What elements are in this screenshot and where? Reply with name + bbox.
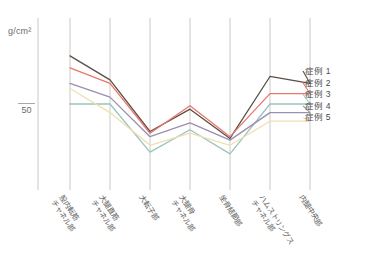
legend-item-case-2[interactable]: 症例 2: [305, 78, 331, 90]
plot-area: [0, 0, 381, 265]
line-chart: g/cm² 50 症例 1 症例 2 症例 3 症例 4 症例 5 股内転筋チャ…: [0, 0, 381, 265]
legend: 症例 1 症例 2 症例 3 症例 4 症例 5: [305, 66, 331, 124]
legend-item-case-5[interactable]: 症例 5: [305, 112, 331, 124]
legend-item-case-3[interactable]: 症例 3: [305, 89, 331, 101]
legend-item-case-4[interactable]: 症例 4: [305, 101, 331, 113]
legend-item-case-1[interactable]: 症例 1: [305, 66, 331, 78]
